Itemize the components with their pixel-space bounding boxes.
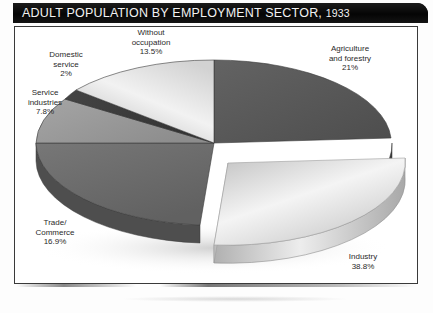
label-agriculture: Agriculture and forestry 21%: [306, 44, 394, 73]
scan-artifact-line: [16, 284, 416, 287]
label-without-occupation: Without occupation 13.5%: [108, 28, 194, 57]
label-industry: Industry 38.8%: [320, 252, 406, 271]
label-without-line2: occupation: [132, 38, 171, 47]
label-domestic-service: Domestic service 2%: [30, 50, 102, 79]
label-domestic-line2: service: [53, 60, 78, 69]
label-trade-value: 16.9%: [18, 237, 92, 247]
label-industry-line1: Industry: [349, 252, 377, 261]
page-title-year: 1933: [326, 7, 350, 19]
slice-trade-commerce[interactable]: [36, 143, 214, 225]
label-agriculture-value: 21%: [306, 63, 394, 73]
label-trade-line2: Commerce: [35, 228, 74, 237]
chart-page: ADULT POPULATION BY EMPLOYMENT SECTOR, 1…: [0, 0, 433, 313]
label-without-value: 13.5%: [108, 47, 194, 57]
title-banner: ADULT POPULATION BY EMPLOYMENT SECTOR, 1…: [13, 3, 428, 23]
label-domestic-value: 2%: [30, 69, 102, 79]
label-agriculture-line1: Agriculture: [331, 44, 369, 53]
scan-artifact-blur: [120, 296, 350, 302]
label-service-line1: Service: [32, 88, 59, 97]
page-title-main: ADULT POPULATION BY EMPLOYMENT SECTOR,: [22, 6, 322, 20]
slice-industry[interactable]: [214, 158, 405, 245]
label-service-value: 7.8%: [6, 107, 84, 117]
label-agriculture-line2: and forestry: [329, 54, 371, 63]
label-domestic-line1: Domestic: [49, 50, 82, 59]
label-service-industries: Service industries 7.8%: [6, 88, 84, 117]
label-trade-commerce: Trade/ Commerce 16.9%: [18, 218, 92, 247]
label-trade-line1: Trade/: [44, 218, 67, 227]
label-service-line2: industries: [28, 98, 62, 107]
label-industry-value: 38.8%: [320, 262, 406, 272]
page-title: ADULT POPULATION BY EMPLOYMENT SECTOR, 1…: [22, 6, 350, 20]
label-without-line1: Without: [137, 28, 164, 37]
